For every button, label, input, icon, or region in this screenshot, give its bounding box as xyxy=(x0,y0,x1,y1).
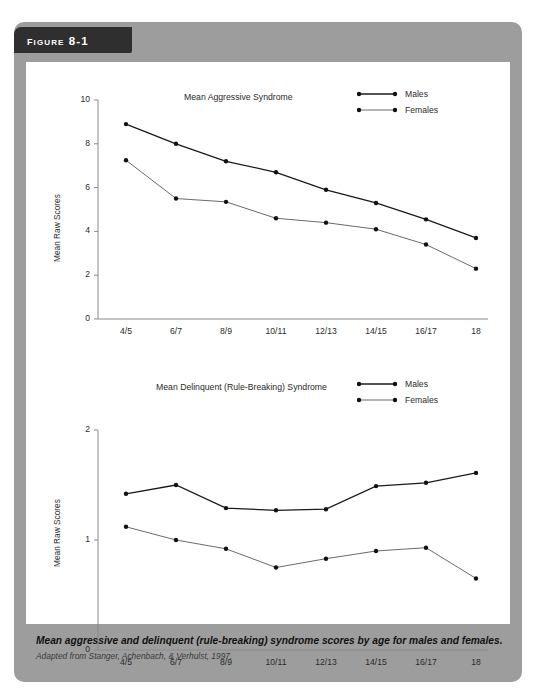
data-point-females xyxy=(474,576,478,580)
data-point-females xyxy=(424,546,428,550)
data-point-females xyxy=(274,565,278,569)
legend-item-males: Males xyxy=(356,376,438,392)
data-point-males xyxy=(324,507,328,511)
data-point-males xyxy=(224,506,228,510)
data-point-males xyxy=(124,122,128,126)
legend-label: Males xyxy=(405,89,428,99)
data-point-females xyxy=(374,227,378,231)
data-point-males xyxy=(324,188,328,192)
figure-banner-label: Figure 8-1 xyxy=(14,33,89,48)
legend-marker-icon xyxy=(356,105,398,115)
data-point-females xyxy=(424,242,428,246)
data-point-males xyxy=(274,170,278,174)
data-point-females xyxy=(324,220,328,224)
legend-label: Females xyxy=(405,105,438,115)
legend-item-females: Females xyxy=(356,392,438,408)
data-point-females xyxy=(474,266,478,270)
data-point-males xyxy=(174,483,178,487)
chart-area: 02468104/56/78/910/1112/1314/1516/1718Me… xyxy=(26,62,510,624)
chart-legend: MalesFemales xyxy=(356,86,438,118)
data-point-males xyxy=(424,481,428,485)
figure-banner: Figure 8-1 xyxy=(14,27,132,53)
data-point-females xyxy=(124,158,128,162)
series-line-males xyxy=(126,473,476,510)
data-point-females xyxy=(374,549,378,553)
data-point-females xyxy=(174,196,178,200)
chart-title: Mean Delinquent (Rule-Breaking) Syndrome xyxy=(156,382,327,392)
figure-caption: Mean aggressive and delinquent (rule-bre… xyxy=(36,634,506,661)
data-point-females xyxy=(174,538,178,542)
legend-marker-icon xyxy=(356,395,398,405)
chart-aggressive-syndrome: 02468104/56/78/910/1112/1314/1516/1718Me… xyxy=(26,62,510,352)
data-point-males xyxy=(274,508,278,512)
chart-title: Mean Aggressive Syndrome xyxy=(184,92,293,102)
data-point-females xyxy=(324,557,328,561)
data-point-males xyxy=(474,236,478,240)
data-point-males xyxy=(224,159,228,163)
data-point-females xyxy=(124,525,128,529)
legend-marker-icon xyxy=(356,379,398,389)
y-axis-title: Mean Raw Scores xyxy=(52,194,62,262)
series-line-females xyxy=(126,160,476,268)
legend-label: Females xyxy=(405,395,438,405)
chart-delinquent-syndrome: 0124/56/78/910/1112/1314/1516/1718Mean D… xyxy=(26,352,510,624)
legend-item-females: Females xyxy=(356,102,438,118)
caption-main-text: Mean aggressive and delinquent (rule-bre… xyxy=(36,634,506,648)
series-line-females xyxy=(126,527,476,579)
legend-marker-icon xyxy=(356,89,398,99)
data-point-females xyxy=(224,200,228,204)
data-point-males xyxy=(474,471,478,475)
y-axis-title: Mean Raw Scores xyxy=(52,499,62,567)
data-point-males xyxy=(374,201,378,205)
caption-source-text: Adapted from Stanger, Achenbach, & Verhu… xyxy=(36,651,506,661)
data-point-males xyxy=(424,217,428,221)
figure-panel: Figure 8-1 02468104/56/78/910/1112/1314/… xyxy=(14,22,522,682)
data-point-females xyxy=(224,547,228,551)
legend-label: Males xyxy=(405,379,428,389)
data-point-females xyxy=(274,216,278,220)
data-point-males xyxy=(124,492,128,496)
chart-legend: MalesFemales xyxy=(356,376,438,408)
data-point-males xyxy=(374,484,378,488)
legend-item-males: Males xyxy=(356,86,438,102)
data-point-males xyxy=(174,142,178,146)
